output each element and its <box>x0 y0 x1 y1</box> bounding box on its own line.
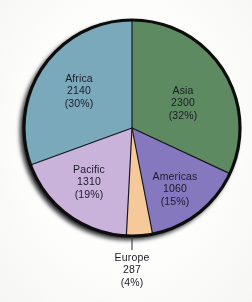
pie-chart-canvas <box>0 0 252 302</box>
pie-chart-figure: Africa 2140 (30%) Asia 2300 (32%) Pacifi… <box>0 0 252 302</box>
